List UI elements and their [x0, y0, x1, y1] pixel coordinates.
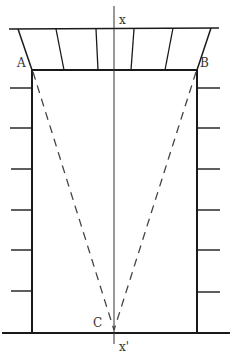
- voussoir-joint: [165, 28, 173, 70]
- right-wall-ticks: [197, 88, 220, 292]
- label-x: x: [119, 13, 126, 27]
- dashed-line-BC: [114, 72, 196, 330]
- walls: [2, 70, 230, 333]
- voussoir-joint: [96, 29, 98, 70]
- label-A: A: [16, 56, 26, 70]
- dashed-line-AC: [33, 72, 114, 330]
- voussoir-joint: [131, 29, 134, 70]
- diagram-canvas: x A B C x': [0, 0, 232, 359]
- label-x-prime: x': [119, 340, 129, 354]
- label-B: B: [200, 56, 209, 70]
- voussoir-joint: [56, 29, 64, 70]
- left-wall-ticks: [10, 88, 32, 291]
- label-C: C: [93, 316, 102, 330]
